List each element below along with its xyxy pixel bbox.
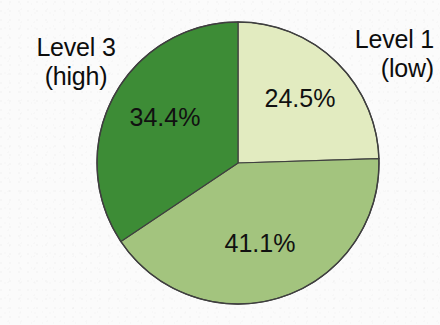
category-label-level-1: Level 1 (low) [294,25,434,83]
slice-value-label-level-1: 24.5% [265,84,336,112]
slice-value-label-level-3: 34.4% [130,103,201,131]
category-label-level-1-line2: (low) [294,54,434,83]
category-label-level-3-line2: (high) [14,62,138,91]
pie-chart-figure: 24.5% 41.1% 34.4% Level 3 (high) Level 1… [0,0,440,325]
category-label-level-1-line1: Level 1 [294,25,434,54]
category-label-level-3-line1: Level 3 [14,33,138,62]
category-label-level-3: Level 3 (high) [14,33,138,91]
slice-value-label-level-2: 41.1% [225,229,296,257]
